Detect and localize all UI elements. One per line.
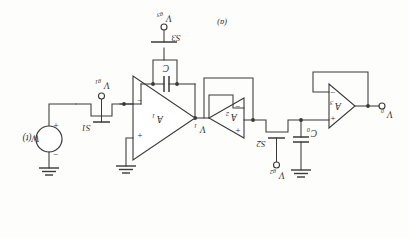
voltage-source-minus-sign: −: [53, 150, 58, 160]
switch-S1-label: S1: [82, 123, 91, 133]
figure-caption: (a): [217, 18, 227, 28]
switch-S1-gate-terminal[interactable]: [99, 93, 105, 99]
circuit-schematic: (a) V 0 A 3 + − C 0: [0, 0, 409, 238]
ground-symbol-source: [39, 168, 59, 175]
node-v1-label: V: [199, 124, 206, 134]
cap-C0-label: C: [310, 128, 317, 138]
output-terminal-label: V: [386, 109, 393, 119]
switch-S1-gate-label-sub: g1: [95, 79, 101, 86]
wire-s2-path: [253, 120, 301, 132]
switch-S3-label: S3: [171, 33, 181, 43]
opamp-A1-label: A: [157, 114, 164, 124]
opamp-A3-plus-sign: +: [330, 114, 335, 124]
circuit-sheet: (a) V 0 A 3 + − C 0: [0, 0, 409, 238]
wire-s1-path: [76, 104, 124, 116]
opamp-A2-minus-sign: −: [235, 102, 240, 112]
wire-a1-plus-to-gnd: [126, 138, 133, 166]
switch-S2-gate-label-sub: g2: [270, 169, 276, 176]
switch-S2-gate-label: V: [278, 170, 285, 180]
opamp-A1-plus-sign: +: [137, 131, 142, 141]
figure-page: (a) V 0 A 3 + − C 0: [0, 0, 409, 238]
node-v1-label-sub: 1: [194, 123, 197, 130]
voltage-source-label: W(t): [23, 132, 40, 143]
opamp-A1-label-sub: 1: [152, 113, 155, 120]
switch-S2-label: S2: [256, 139, 266, 149]
switch-S3-gate-label-sub: g3: [157, 12, 163, 19]
opamp-A3-label: A: [335, 101, 342, 111]
switch-S3-gate-label: V: [165, 13, 172, 23]
opamp-A2-label: A: [231, 112, 238, 122]
switch-S3-gate-terminal[interactable]: [161, 24, 167, 30]
ground-symbol-c0: [291, 170, 311, 177]
switch-S2-gate-terminal[interactable]: [274, 162, 280, 168]
opamp-A2-plus-sign: +: [235, 126, 240, 136]
ground-symbol-a1: [116, 166, 136, 173]
opamp-A3-minus-sign: −: [330, 88, 335, 98]
cap-C-label: C: [162, 63, 169, 73]
output-terminal-label-sub: 0: [380, 108, 384, 115]
voltage-source-plus-sign: +: [53, 121, 58, 131]
switch-S1-gate-label: V: [103, 80, 110, 90]
opamp-A2-label-sub: 2: [226, 111, 229, 118]
cap-C0-label-sub: 0: [306, 127, 310, 134]
